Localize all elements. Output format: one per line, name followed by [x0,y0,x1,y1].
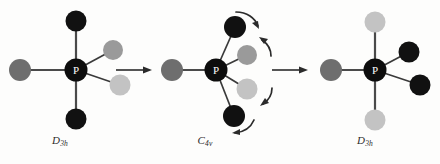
ligand-axial-top [365,12,386,33]
ligand-axial-bottom [66,109,87,130]
point-group-label-left: D3h [40,134,80,146]
structure-right: P [320,12,431,131]
ligand-equatorial-upper-right [103,40,123,60]
reaction-arrow-1-head [143,67,152,74]
point-group-letter-middle: C [197,134,205,146]
structure-middle: P [161,12,272,135]
curved-arrow-top-head [252,21,259,29]
reaction-arrow-2-head [299,67,308,74]
structure-left: P [9,11,131,130]
ligand-basal-upper [224,16,246,38]
center-atom-label: P [213,64,219,76]
center-atom-label: P [372,64,378,76]
point-group-subscript-middle: 4v [205,139,212,148]
ligand-equatorial-left [9,59,31,81]
ligand-axial-top [66,11,87,32]
ligand-axial-bottom [365,110,386,131]
curved-arrow-bottom-head [232,129,240,135]
ligand-basal-mid-lower [237,79,258,100]
ligand-equatorial-lower-right [410,75,431,96]
point-group-letter-left: D [52,134,60,146]
ligand-equatorial-upper-right [399,42,420,63]
point-group-subscript-right: 3h [365,139,373,148]
center-atom-label: P [73,64,79,76]
point-group-label-right: D3h [345,134,385,146]
reaction-arrow-1 [116,67,152,74]
ligand-equatorial-lower-right [110,75,131,96]
point-group-subscript-left: 3h [60,139,68,148]
point-group-label-middle: C4v [185,134,225,146]
ligand-equatorial-left [320,59,342,81]
point-group-letter-right: D [357,134,365,146]
ligand-apical-left [161,59,183,81]
ligand-basal-mid-upper [237,45,257,65]
ligand-basal-lower [223,105,245,127]
reaction-arrow-2 [272,67,308,74]
